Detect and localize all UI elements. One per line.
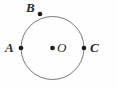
point-o-label: O: [57, 41, 66, 54]
point-c-label: C: [90, 41, 99, 54]
point-a-dot: [19, 46, 24, 51]
point-b-dot: [38, 12, 43, 17]
point-o-center-dot: [50, 46, 55, 51]
point-c-dot: [82, 46, 87, 51]
point-b-label: B: [26, 1, 35, 14]
point-a-label: A: [5, 41, 14, 54]
geometry-figure: A B C O: [0, 0, 117, 89]
